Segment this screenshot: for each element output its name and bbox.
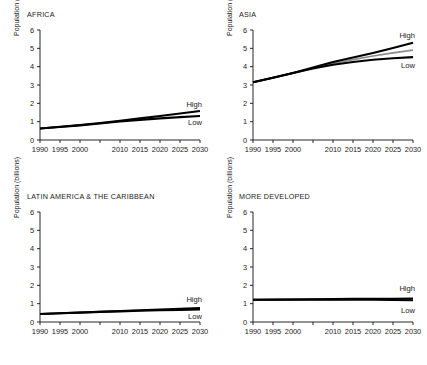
x-tick-label-0-1: 1995 bbox=[52, 145, 68, 154]
y-tick-label-0-1: 1 bbox=[30, 117, 34, 126]
y-tick-label-3-2: 2 bbox=[243, 281, 247, 290]
x-tick-label-3-7: 2025 bbox=[385, 327, 401, 336]
x-tick-label-2-6: 2020 bbox=[152, 327, 168, 336]
y-tick-label-3-3: 3 bbox=[243, 263, 247, 272]
series-annotation-low-2: Low bbox=[188, 312, 202, 321]
y-tick-label-0-3: 3 bbox=[30, 81, 34, 90]
series-annotation-high-2: High bbox=[186, 295, 202, 304]
x-tick-label-0-6: 2020 bbox=[152, 145, 168, 154]
x-tick-label-2-0: 1990 bbox=[32, 327, 48, 336]
x-tick-label-1-7: 2025 bbox=[385, 145, 401, 154]
y-tick-label-2-0: 0 bbox=[30, 318, 34, 327]
x-tick-label-0-5: 2015 bbox=[132, 145, 148, 154]
y-tick-label-2-1: 1 bbox=[30, 299, 34, 308]
x-tick-label-0-0: 1990 bbox=[32, 145, 48, 154]
y-tick-label-1-4: 4 bbox=[243, 62, 247, 71]
x-tick-label-3-2: 2000 bbox=[285, 327, 301, 336]
x-tick-label-2-4: 2010 bbox=[112, 327, 128, 336]
x-tick-label-0-7: 2025 bbox=[172, 145, 188, 154]
y-tick-label-0-5: 5 bbox=[30, 44, 34, 53]
y-tick-label-1-3: 3 bbox=[243, 81, 247, 90]
x-tick-label-2-2: 2000 bbox=[72, 327, 88, 336]
y-tick-label-3-6: 6 bbox=[243, 208, 247, 217]
y-tick-label-2-2: 2 bbox=[30, 281, 34, 290]
x-tick-label-1-6: 2020 bbox=[365, 145, 381, 154]
plot-asia: 012345619901995200020102015202020252030H… bbox=[213, 0, 427, 182]
y-tick-label-2-3: 3 bbox=[30, 263, 34, 272]
panel-more-developed: MORE DEVELOPED Population (billions) 012… bbox=[213, 182, 427, 365]
x-tick-label-2-8: 2030 bbox=[192, 327, 208, 336]
panel-asia: ASIA Population (billions) 0123456199019… bbox=[213, 0, 427, 182]
x-tick-label-3-4: 2010 bbox=[325, 327, 341, 336]
series-line-asia-low bbox=[253, 57, 413, 82]
y-tick-label-2-4: 4 bbox=[30, 244, 34, 253]
series-annotation-high-0: High bbox=[186, 100, 202, 109]
y-tick-label-1-6: 6 bbox=[243, 26, 247, 35]
x-tick-label-3-6: 2020 bbox=[365, 327, 381, 336]
y-tick-label-0-0: 0 bbox=[30, 136, 34, 145]
y-tick-label-2-6: 6 bbox=[30, 208, 34, 217]
y-tick-label-3-4: 4 bbox=[243, 244, 247, 253]
y-tick-label-2-5: 5 bbox=[30, 226, 34, 235]
panel-latin-america: LATIN AMERICA & THE CARIBBEAN Population… bbox=[0, 182, 213, 365]
series-annotation-low-3: Low bbox=[401, 306, 415, 315]
x-tick-label-0-4: 2010 bbox=[112, 145, 128, 154]
y-tick-label-3-1: 1 bbox=[243, 299, 247, 308]
x-tick-label-0-8: 2030 bbox=[192, 145, 208, 154]
y-tick-label-0-6: 6 bbox=[30, 26, 34, 35]
x-tick-label-3-0: 1990 bbox=[245, 327, 261, 336]
y-tick-label-0-4: 4 bbox=[30, 62, 34, 71]
x-tick-label-2-1: 1995 bbox=[52, 327, 68, 336]
x-tick-label-1-0: 1990 bbox=[245, 145, 261, 154]
x-tick-label-1-2: 2000 bbox=[285, 145, 301, 154]
chart-grid: AFRICA Population (billions) 01234561990… bbox=[0, 0, 427, 365]
x-tick-label-2-5: 2015 bbox=[132, 327, 148, 336]
series-annotation-high-1: High bbox=[399, 31, 415, 40]
x-tick-label-0-2: 2000 bbox=[72, 145, 88, 154]
plot-africa: 012345619901995200020102015202020252030H… bbox=[0, 0, 213, 182]
series-line-more-developed-low bbox=[253, 300, 413, 301]
x-tick-label-1-5: 2015 bbox=[345, 145, 361, 154]
x-tick-label-3-8: 2030 bbox=[405, 327, 421, 336]
plot-more-developed: 012345619901995200020102015202020252030H… bbox=[213, 182, 427, 365]
series-line-africa-low bbox=[40, 116, 200, 128]
panel-africa: AFRICA Population (billions) 01234561990… bbox=[0, 0, 213, 182]
y-tick-label-3-0: 0 bbox=[243, 318, 247, 327]
y-tick-label-0-2: 2 bbox=[30, 99, 34, 108]
x-tick-label-3-1: 1995 bbox=[265, 327, 281, 336]
y-tick-label-1-5: 5 bbox=[243, 44, 247, 53]
y-tick-label-1-1: 1 bbox=[243, 117, 247, 126]
y-tick-label-3-5: 5 bbox=[243, 226, 247, 235]
series-annotation-low-1: Low bbox=[401, 61, 415, 70]
series-annotation-high-3: High bbox=[399, 284, 415, 293]
plot-latin-america: 012345619901995200020102015202020252030H… bbox=[0, 182, 213, 365]
x-tick-label-2-7: 2025 bbox=[172, 327, 188, 336]
x-tick-label-1-1: 1995 bbox=[265, 145, 281, 154]
x-tick-label-1-4: 2010 bbox=[325, 145, 341, 154]
x-tick-label-1-8: 2030 bbox=[405, 145, 421, 154]
y-tick-label-1-0: 0 bbox=[243, 136, 247, 145]
series-annotation-low-0: Low bbox=[188, 118, 202, 127]
x-tick-label-3-5: 2015 bbox=[345, 327, 361, 336]
y-tick-label-1-2: 2 bbox=[243, 99, 247, 108]
